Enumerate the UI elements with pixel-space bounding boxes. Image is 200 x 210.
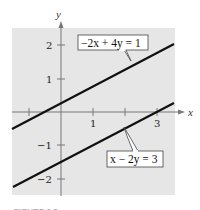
y-axis-label: y [55, 8, 61, 20]
x-tick-label-1: 1 [90, 118, 96, 129]
y-tick-label-minus-1: −1 [37, 140, 52, 151]
chart: x y 1 3 2 1 −1 −2 −2x + 4y = 1 x − 2y = … [0, 0, 200, 210]
y-tick-label-minus-2: −2 [37, 174, 52, 185]
eq2-label: x − 2y = 3 [110, 153, 158, 166]
x-axis-label: x [187, 106, 193, 118]
x-tick-label-3: 3 [154, 118, 160, 129]
y-tick-label-1: 1 [46, 74, 52, 85]
eq1-label: −2x + 4y = 1 [81, 37, 141, 50]
figure-caption: FIGURE 6.8 [14, 207, 58, 210]
x-axis-arrow-icon [178, 110, 185, 115]
y-axis-arrow-icon [59, 21, 64, 28]
y-tick-label-2: 2 [46, 40, 52, 51]
